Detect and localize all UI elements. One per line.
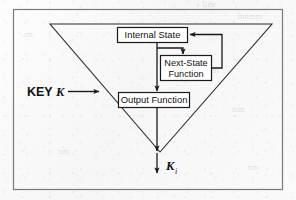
keystream-output-subscript: i [175,167,177,176]
block-next-state-function[interactable]: Next-State Function [161,56,212,81]
figure-canvas: a line mnmm mm nm mm nm im Internal Sta [0,0,296,200]
block-internal-state[interactable]: Internal State [118,28,188,43]
state-to-next-state-line [157,48,183,54]
block-next-state-function-label-line1: Next-State [164,58,207,68]
key-input-label-symbol: K [55,85,66,99]
keystream-output-label: K i [165,159,177,176]
key-input-label: KEY K [27,85,66,99]
key-input-label-prefix: KEY [27,85,53,99]
inverted-triangle [50,24,272,152]
block-internal-state-label: Internal State [125,29,181,40]
block-output-function-label: Output Function [121,94,188,105]
block-output-function[interactable]: Output Function [119,93,190,108]
block-diagram: Internal State Next-State Function Outpu… [0,0,296,200]
block-next-state-function-label-line2: Function [168,69,203,79]
